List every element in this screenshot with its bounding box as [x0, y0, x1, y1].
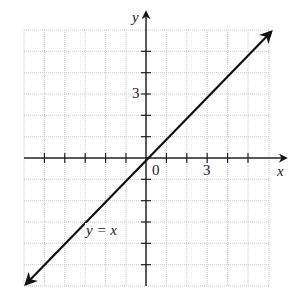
equation-label: y = x — [85, 223, 118, 238]
y-tick-label-3: 3 — [132, 86, 140, 101]
coordinate-plane — [0, 0, 289, 296]
y-axis-label: y — [132, 10, 139, 25]
origin-label: 0 — [152, 163, 160, 178]
x-tick-label-3: 3 — [203, 163, 211, 178]
x-axis-label: x — [277, 164, 284, 179]
